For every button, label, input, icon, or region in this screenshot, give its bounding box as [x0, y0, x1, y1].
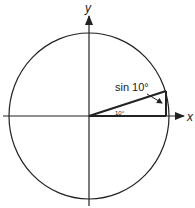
- radius-line: [89, 91, 166, 116]
- y-axis-label: y: [84, 1, 92, 15]
- x-axis-label: x: [186, 110, 194, 124]
- unit-circle-diagram: y x sin 10° 10°: [0, 0, 195, 208]
- angle-label: 10°: [115, 110, 125, 116]
- sine-label: sin 10°: [115, 81, 149, 93]
